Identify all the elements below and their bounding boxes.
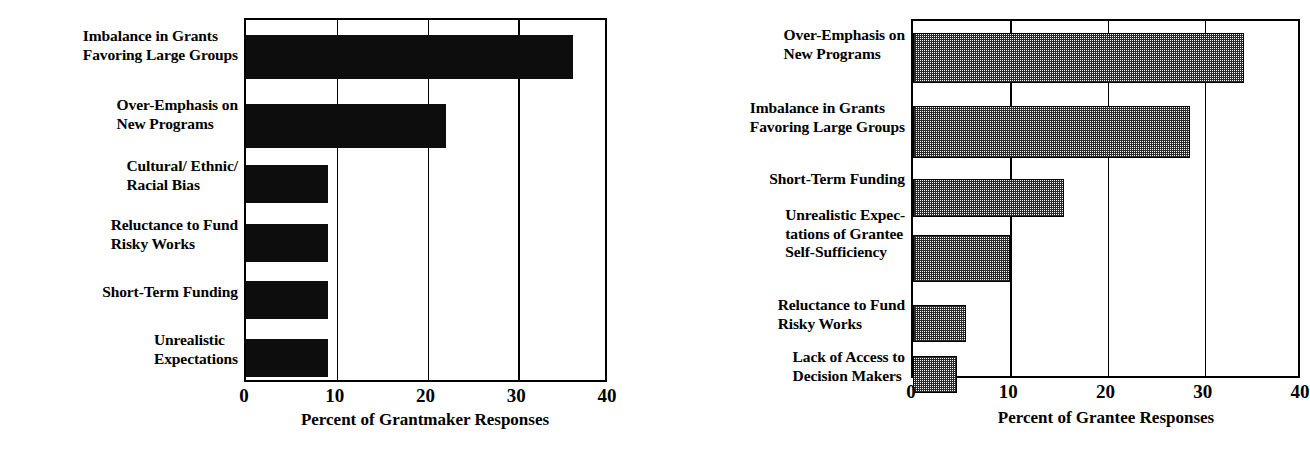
x-tick-label-30: 30 [507, 386, 526, 405]
x-tick-label-10: 10 [325, 386, 344, 405]
category-label: Unrealistic Expectations [154, 331, 238, 368]
grantmaker-category-labels: Imbalance in Grants Favoring Large Group… [4, 0, 238, 451]
category-label: Unrealistic Expec- tations of Grantee Se… [785, 206, 905, 262]
bar [246, 224, 328, 262]
bar [246, 165, 328, 203]
x-tick-label-30: 30 [1193, 382, 1212, 401]
grantmaker-chart-panel: Imbalance in Grants Favoring Large Group… [0, 0, 654, 451]
bar [913, 106, 1190, 158]
grantee-chart-panel: Over-Emphasis on New ProgramsImbalance i… [654, 0, 1308, 451]
bar [246, 104, 446, 148]
x-tick-label-10: 10 [999, 382, 1018, 401]
category-label: Reluctance to Fund Risky Works [111, 216, 238, 253]
bar [913, 33, 1244, 83]
category-label: Over-Emphasis on New Programs [117, 96, 238, 133]
bar [913, 305, 966, 342]
x-tick-label-40: 40 [1291, 382, 1310, 401]
grantee-axis-title: Percent of Grantee Responses [998, 409, 1214, 427]
x-tick-label-40: 40 [598, 386, 617, 405]
category-label: Short-Term Funding [102, 283, 238, 302]
grantmaker-plot-area [244, 18, 607, 382]
category-label: Lack of Access to Decision Makers [793, 348, 905, 385]
category-label: Over-Emphasis on New Programs [784, 26, 905, 63]
category-label: Imbalance in Grants Favoring Large Group… [83, 27, 238, 64]
category-label: Cultural/ Ethnic/ Racial Bias [126, 157, 238, 194]
grantmaker-axis-title: Percent of Grantmaker Responses [301, 411, 549, 429]
bar [246, 35, 573, 79]
grantee-category-labels: Over-Emphasis on New ProgramsImbalance i… [658, 0, 905, 451]
bar [913, 356, 957, 393]
x-tick-label-0: 0 [239, 386, 249, 405]
bar [913, 235, 1010, 282]
grantee-plot-area [911, 19, 1300, 378]
category-label: Imbalance in Grants Favoring Large Group… [750, 99, 905, 136]
bar [246, 339, 328, 377]
category-label: Reluctance to Fund Risky Works [778, 296, 905, 333]
x-tick-label-20: 20 [1096, 382, 1115, 401]
x-tick-label-0: 0 [906, 382, 916, 401]
bar [913, 179, 1064, 217]
category-label: Short-Term Funding [769, 170, 905, 189]
bar [246, 281, 328, 319]
x-tick-label-20: 20 [416, 386, 435, 405]
